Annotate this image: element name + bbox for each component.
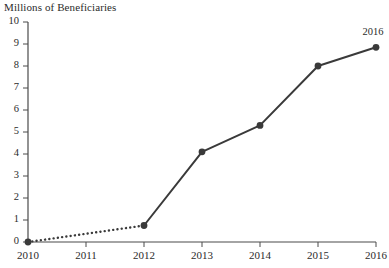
y-axis-tick-labels: 012345678910 [9, 15, 20, 246]
x-axis: 2010201120122013201420152016 [17, 242, 388, 261]
x-tick-label: 2015 [307, 249, 330, 261]
data-line-segment [202, 125, 260, 151]
data-point-marker [373, 44, 380, 51]
data-point-marker [315, 63, 322, 70]
y-tick-label: 0 [14, 235, 19, 246]
data-point-markers [25, 44, 380, 246]
y-axis-ticks [23, 22, 28, 242]
x-tick-label: 2013 [191, 249, 214, 261]
data-line-segments [28, 47, 376, 242]
x-axis-ticks [86, 242, 376, 247]
data-point-marker [141, 222, 148, 229]
x-tick-label: 2011 [75, 249, 97, 261]
data-line-segment [144, 152, 202, 226]
chart-container: Millions of Beneficiaries 012345678910 2… [0, 0, 389, 268]
x-tick-label: 2014 [249, 249, 272, 261]
y-axis: 012345678910 [9, 15, 29, 246]
data-line-segment [318, 47, 376, 66]
x-tick-label: 2010 [17, 249, 40, 261]
line-chart-plot: 012345678910 201020112012201320142015201… [0, 0, 389, 268]
data-point-marker [199, 148, 206, 155]
y-tick-label: 9 [14, 37, 19, 48]
y-tick-label: 10 [9, 15, 20, 26]
y-tick-label: 4 [14, 147, 20, 158]
y-tick-label: 2 [14, 191, 19, 202]
y-tick-label: 3 [14, 169, 19, 180]
data-line-segment [28, 226, 144, 243]
x-tick-label: 2012 [133, 249, 155, 261]
y-tick-label: 6 [14, 103, 19, 114]
data-point-annotations: 2016 [363, 26, 384, 37]
y-tick-label: 8 [14, 59, 19, 70]
data-line-segment [260, 66, 318, 125]
x-tick-label: 2016 [365, 249, 388, 261]
y-tick-label: 5 [14, 125, 19, 136]
data-point-label: 2016 [363, 26, 384, 37]
x-axis-tick-labels: 2010201120122013201420152016 [17, 249, 388, 261]
y-tick-label: 7 [14, 81, 19, 92]
y-tick-label: 1 [14, 213, 19, 224]
data-point-marker [257, 122, 264, 129]
data-point-marker [25, 239, 32, 246]
